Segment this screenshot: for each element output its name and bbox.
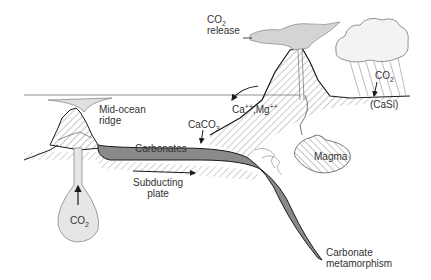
weathering-co2-label: CO2 (375, 70, 394, 81)
mg-text: ,Mg (253, 104, 270, 115)
co2-release-label: CO2 release (207, 14, 240, 36)
ca-charge: ++ (245, 103, 253, 110)
caco3-subscript: 3 (216, 125, 220, 132)
caco3-label: CaCO3 (188, 119, 220, 130)
plate-text: plate (147, 188, 169, 199)
subducting-text: Subducting (133, 177, 183, 188)
magma-label: Magma (314, 151, 347, 162)
carbonates-label: Carbonates (135, 143, 187, 154)
ion-arrow (232, 86, 258, 100)
co2-smoke-plume (250, 22, 340, 50)
mid-ocean-ridge-label: Mid-ocean ridge (99, 104, 146, 126)
caco-text: CaCO (188, 119, 216, 130)
casi-label: (CaSi) (370, 99, 398, 110)
release-text: release (207, 25, 240, 36)
co2-text: CO (207, 14, 222, 25)
ca-text: Ca (232, 104, 245, 115)
carbonate-metamorphism-label: Carbonate metamorphism (326, 247, 392, 269)
mg-charge: ++ (270, 103, 278, 110)
mid-ocean-text: Mid-ocean (99, 104, 146, 115)
co2-subscript: 2 (390, 76, 394, 83)
co2-text: CO (375, 70, 390, 81)
caco3-arrow (201, 130, 203, 143)
metamorphism-text: metamorphism (326, 258, 392, 269)
carbonate-text: Carbonate (326, 247, 373, 258)
rain-cloud (336, 18, 409, 62)
co2-text: CO (70, 215, 85, 226)
ridge-text: ridge (99, 115, 121, 126)
diagram-canvas (0, 0, 431, 280)
ions-label: Ca++,Mg++ (232, 104, 278, 115)
subducting-plate-label: Subducting plate (133, 177, 183, 199)
plume-co2-label: CO2 (70, 215, 89, 226)
co2-subscript: 2 (85, 221, 89, 228)
